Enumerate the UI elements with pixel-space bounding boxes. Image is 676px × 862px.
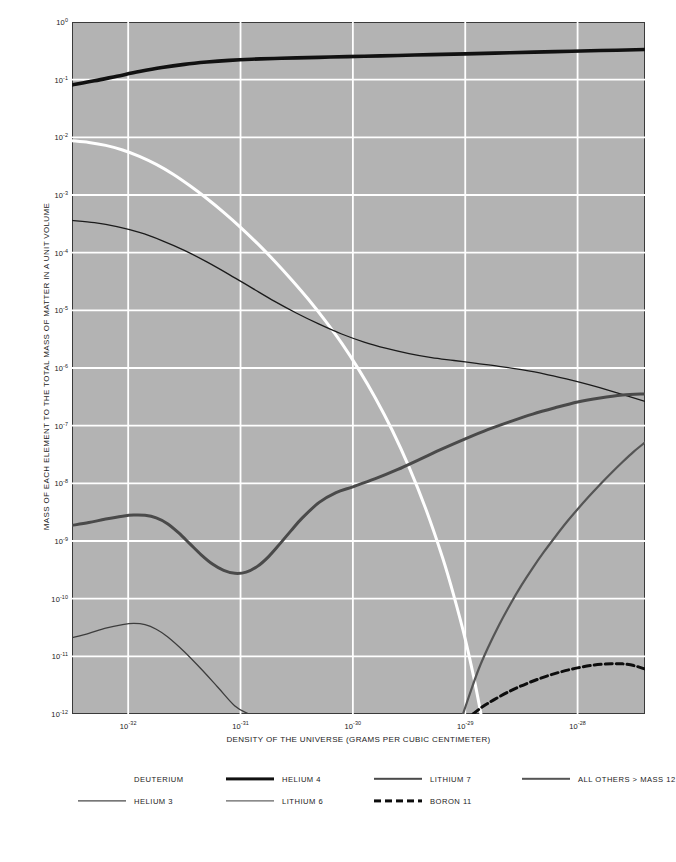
y-tick-label: 10-6 xyxy=(54,363,68,374)
legend-item[interactable]: HELIUM 3 xyxy=(78,794,173,808)
legend-item[interactable]: DEUTERIUM xyxy=(78,772,184,786)
y-axis-label: MASS OF EACH ELEMENT TO THE TOTAL MASS O… xyxy=(42,57,51,677)
legend-item[interactable]: HELIUM 4 xyxy=(226,772,321,786)
legend-item[interactable]: ALL OTHERS > MASS 12 xyxy=(522,772,676,786)
series-line-lithium-6 xyxy=(72,623,248,714)
y-tick-label: 10-7 xyxy=(54,420,68,431)
legend-label: LITHIUM 7 xyxy=(430,775,471,784)
legend-swatch-icon xyxy=(226,773,274,785)
y-tick-label: 10-3 xyxy=(54,190,68,201)
legend-label: LITHIUM 6 xyxy=(282,797,323,806)
legend-label: ALL OTHERS > MASS 12 xyxy=(578,775,676,784)
plot-area xyxy=(72,22,645,714)
legend-item[interactable]: LITHIUM 7 xyxy=(374,772,471,786)
x-tick-label: 10-30 xyxy=(345,720,362,731)
series-line-deuterium xyxy=(72,141,481,714)
legend-label: DEUTERIUM xyxy=(134,775,184,784)
y-tick-label: 10-1 xyxy=(54,74,68,85)
series-line-boron-11 xyxy=(473,664,645,714)
chart-legend: DEUTERIUMHELIUM 4LITHIUM 7ALL OTHERS > M… xyxy=(78,772,638,818)
legend-swatch-icon xyxy=(374,773,422,785)
y-tick-label: 10-9 xyxy=(54,536,68,547)
x-tick-label: 10-31 xyxy=(232,720,249,731)
legend-label: BORON 11 xyxy=(430,797,472,806)
x-tick-label: 10-32 xyxy=(120,720,137,731)
y-tick-label: 10-4 xyxy=(54,247,68,258)
legend-label: HELIUM 3 xyxy=(134,797,173,806)
data-series-layer xyxy=(72,50,645,714)
legend-label: HELIUM 4 xyxy=(282,775,321,784)
plot-canvas xyxy=(72,22,645,714)
legend-swatch-icon xyxy=(78,773,126,785)
y-tick-label: 10-2 xyxy=(54,132,68,143)
legend-item[interactable]: BORON 11 xyxy=(374,794,472,808)
y-tick-label: 10-8 xyxy=(54,478,68,489)
y-tick-label: 10-11 xyxy=(52,651,68,662)
legend-swatch-icon xyxy=(374,795,422,807)
y-tick-label: 10-5 xyxy=(54,305,68,316)
x-axis-label: DENSITY OF THE UNIVERSE (GRAMS PER CUBIC… xyxy=(72,735,645,744)
y-tick-label: 10-12 xyxy=(51,709,68,720)
y-tick-label: 10-10 xyxy=(51,593,68,604)
y-tick-label: 100 xyxy=(56,17,68,28)
x-tick-label: 10-29 xyxy=(457,720,474,731)
legend-swatch-icon xyxy=(226,795,274,807)
legend-swatch-icon xyxy=(78,795,126,807)
legend-swatch-icon xyxy=(522,773,570,785)
x-tick-label: 10-28 xyxy=(569,720,586,731)
legend-item[interactable]: LITHIUM 6 xyxy=(226,794,323,808)
x-axis-ticks: 10-3210-3110-3010-2910-28 xyxy=(72,720,645,736)
